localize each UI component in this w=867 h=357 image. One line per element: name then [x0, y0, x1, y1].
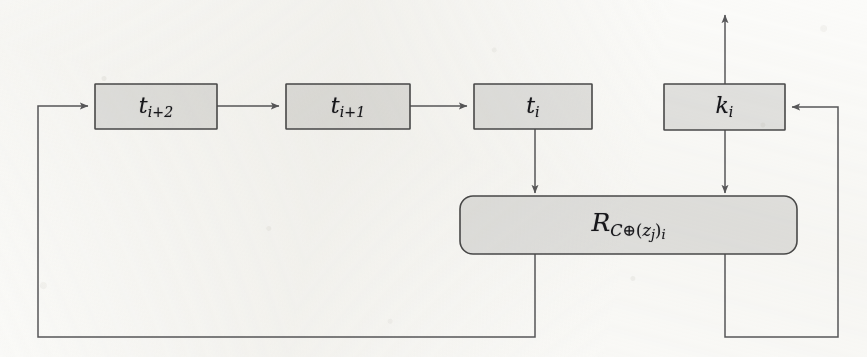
diagram-vector-layer	[0, 0, 867, 357]
node-t-i-plus-2	[95, 84, 217, 129]
node-k-i	[664, 84, 785, 130]
node-r-function	[460, 196, 797, 254]
diagram-canvas: ti+2 ti+1 ti ki RC⊕(zj)i	[0, 0, 867, 357]
node-t-i	[474, 84, 592, 129]
node-t-i-plus-1	[286, 84, 410, 129]
